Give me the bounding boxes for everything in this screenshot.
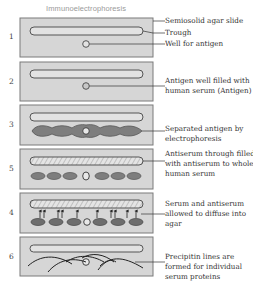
slide-step-6: [20, 237, 165, 276]
antiserum-trough: [30, 157, 143, 165]
slide-step-1: [20, 18, 165, 57]
label-step-6-line-2: formed for individual: [165, 262, 242, 272]
label-antigen-well: Well for antigen: [165, 39, 223, 49]
label-step-3-line-1: Separated antigen by: [165, 124, 243, 134]
slide-step-3: [20, 105, 165, 145]
label-step-4-line-3: agar: [165, 219, 182, 229]
slide-step-4: [20, 193, 165, 233]
label-step-6-line-1: Precipitin lines are: [165, 252, 234, 262]
label-step-4-line-1: Serum and antiserum: [165, 199, 244, 209]
trough: [30, 27, 143, 35]
step-number-4: 4: [9, 208, 14, 217]
label-step-5-line-1: Antiserum through filled: [165, 149, 253, 159]
label-step-6-line-3: serum proteins: [165, 272, 220, 282]
step-number-2: 2: [9, 77, 14, 86]
step-number-3: 3: [9, 120, 14, 129]
label-agar-slide: Semiosolid agar slide: [165, 16, 243, 26]
step-number-5: 5: [9, 164, 14, 173]
label-step-2-line-1: Antigen well filled with: [165, 76, 250, 86]
antigen-well: [83, 41, 90, 48]
label-step-2-line-2: human serum (Antigen): [165, 86, 251, 96]
label-step-3-line-2: electrophoresis: [165, 134, 221, 144]
step-number-1: 1: [9, 32, 14, 41]
label-trough: Trough: [165, 28, 191, 38]
slide-step-2: [20, 62, 165, 101]
step-number-6: 6: [9, 252, 14, 261]
slide-step-5: [20, 149, 165, 189]
label-step-5-line-3: human serum: [165, 169, 215, 179]
label-step-4-line-2: allowed to diffuse into: [165, 209, 246, 219]
label-step-5-line-2: with antiserum to whole: [165, 159, 253, 169]
